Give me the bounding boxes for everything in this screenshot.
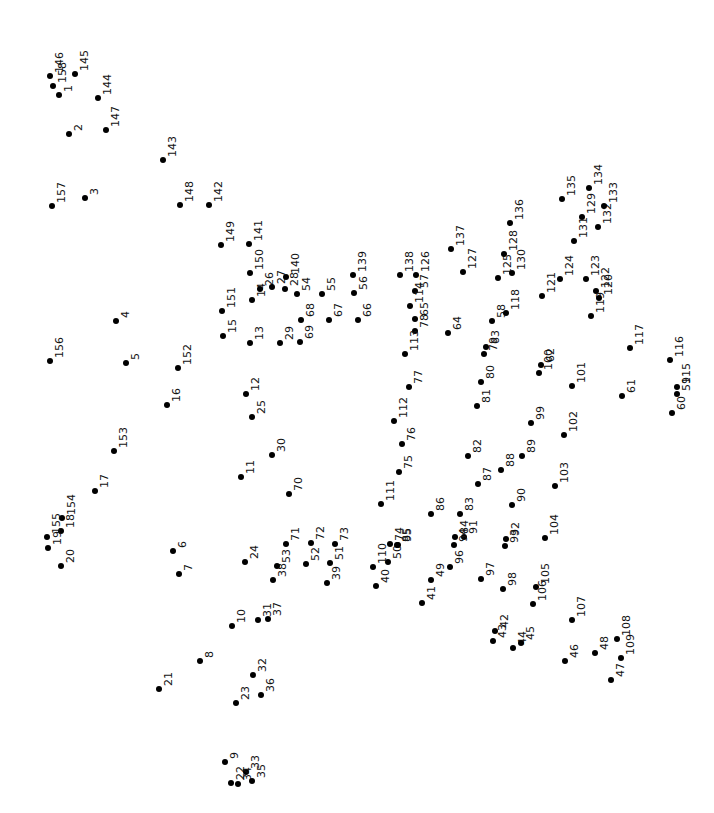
puzzle-dot [445, 330, 451, 336]
dot-number-label: 152 [182, 344, 193, 365]
puzzle-dot [111, 448, 117, 454]
dot-number-label: 28 [289, 272, 300, 286]
puzzle-dot [552, 483, 558, 489]
puzzle-dot [571, 238, 577, 244]
puzzle-dot [243, 391, 249, 397]
dot-number-label: 46 [569, 644, 580, 658]
dot-number-label: 3 [89, 188, 100, 195]
dot-number-label: 5 [130, 353, 141, 360]
dot-number-label: 24 [249, 545, 260, 559]
puzzle-dot [269, 452, 275, 458]
puzzle-dot [47, 73, 53, 79]
dot-number-label: 113 [409, 330, 420, 351]
puzzle-dot [238, 474, 244, 480]
dot-number-label: 81 [481, 389, 492, 403]
dot-number-label: 79 [488, 337, 499, 351]
dot-number-label: 111 [385, 480, 396, 501]
puzzle-dot [510, 645, 516, 651]
puzzle-dot [370, 564, 376, 570]
puzzle-dot [419, 600, 425, 606]
puzzle-dot [219, 308, 225, 314]
puzzle-dot [123, 360, 129, 366]
dot-number-label: 127 [467, 248, 478, 269]
puzzle-dot [282, 286, 288, 292]
dot-number-label: 30 [276, 438, 287, 452]
puzzle-dot [242, 559, 248, 565]
dot-number-label: 103 [559, 462, 570, 483]
puzzle-dot [478, 379, 484, 385]
dot-number-label: 106 [537, 580, 548, 601]
dot-number-label: 150 [254, 249, 265, 270]
dot-number-label: 89 [526, 439, 537, 453]
puzzle-dot [536, 370, 542, 376]
dot-number-label: 60 [676, 396, 687, 410]
puzzle-dot [350, 272, 356, 278]
puzzle-dot [250, 672, 256, 678]
puzzle-dot [351, 290, 357, 296]
puzzle-dot [265, 616, 271, 622]
dot-number-label: 7 [183, 564, 194, 571]
dot-number-label: 56 [358, 276, 369, 290]
dot-number-label: 94 [458, 528, 469, 542]
puzzle-dot [601, 203, 607, 209]
dot-number-label: 135 [566, 175, 577, 196]
dot-number-label: 13 [254, 326, 265, 340]
dot-number-label: 102 [568, 411, 579, 432]
puzzle-dot [518, 640, 524, 646]
dot-number-label: 142 [213, 181, 224, 202]
puzzle-dot [286, 491, 292, 497]
puzzle-dot [495, 275, 501, 281]
puzzle-dot [277, 340, 283, 346]
puzzle-dot [297, 339, 303, 345]
dot-number-label: 10 [236, 609, 247, 623]
dot-number-label: 64 [452, 316, 463, 330]
dot-number-label: 98 [507, 572, 518, 586]
dot-number-label: 36 [265, 678, 276, 692]
dot-number-label: 88 [505, 453, 516, 467]
dot-number-label: 99 [535, 406, 546, 420]
puzzle-dot [413, 272, 419, 278]
dot-number-label: 39 [331, 566, 342, 580]
dot-number-label: 52 [310, 547, 321, 561]
puzzle-dot [489, 318, 495, 324]
puzzle-dot [355, 317, 361, 323]
puzzle-dot [475, 481, 481, 487]
dot-number-label: 48 [599, 636, 610, 650]
puzzle-dot [246, 241, 252, 247]
puzzle-dot [557, 276, 563, 282]
dot-number-label: 116 [674, 336, 685, 357]
dot-number-label: 2 [73, 124, 84, 131]
puzzle-dot [447, 564, 453, 570]
dot-number-label: 67 [333, 303, 344, 317]
dot-number-label: 140 [290, 253, 301, 274]
dot-number-label: 149 [225, 221, 236, 242]
dot-number-label: 129 [586, 193, 597, 214]
puzzle-dot [595, 224, 601, 230]
dot-number-label: 47 [615, 663, 626, 677]
puzzle-dot [539, 293, 545, 299]
dot-number-label: 70 [293, 477, 304, 491]
dot-number-label: 136 [514, 199, 525, 220]
puzzle-dot [481, 351, 487, 357]
dot-number-label: 68 [305, 303, 316, 317]
puzzle-dot [92, 488, 98, 494]
dot-number-label: 20 [65, 549, 76, 563]
puzzle-dot [588, 313, 594, 319]
puzzle-dot [428, 511, 434, 517]
puzzle-dot [308, 540, 314, 546]
dot-number-label: 154 [66, 494, 77, 515]
puzzle-dot [170, 548, 176, 554]
dot-to-dot-puzzle: 1234567891011121314151617181920212223242… [0, 0, 714, 813]
dot-number-label: 86 [435, 497, 446, 511]
puzzle-dot [478, 576, 484, 582]
puzzle-dot [502, 543, 508, 549]
puzzle-dot [395, 542, 401, 548]
puzzle-dot [397, 272, 403, 278]
puzzle-dot [103, 127, 109, 133]
dot-number-label: 18 [65, 514, 76, 528]
puzzle-dot [66, 131, 72, 137]
puzzle-dot [448, 246, 454, 252]
puzzle-dot [257, 286, 263, 292]
puzzle-dot [460, 269, 466, 275]
puzzle-dot [228, 780, 234, 786]
